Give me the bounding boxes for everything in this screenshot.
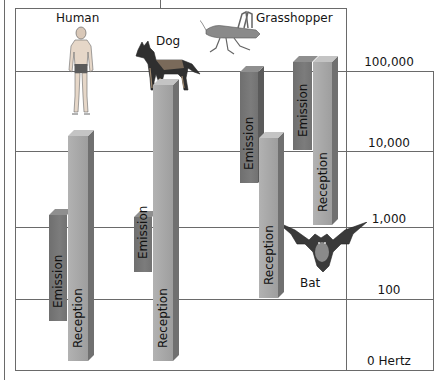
axis-column-right: [433, 71, 434, 371]
chart-frame-left: [15, 8, 16, 371]
axis-tick-100000: 100,000: [349, 55, 429, 69]
outer-left-border: [4, 0, 5, 380]
animal-label-human: Human: [56, 11, 99, 25]
chart-frame-divider: [346, 8, 347, 371]
dog-reception-label: Reception: [156, 288, 170, 348]
chart-frame-top: [15, 8, 347, 9]
human-emission-label: Emission: [51, 255, 65, 308]
dog-emission-label: Emission: [136, 206, 150, 259]
bat-reception-bar: Reception: [313, 62, 332, 225]
dog-reception-bar: Reception: [153, 85, 173, 361]
dog-emission-bar: Emission: [134, 217, 152, 272]
grasshopper-icon: [200, 8, 262, 58]
grasshopper-emission-bar: Emission: [240, 72, 258, 183]
bat-icon: [275, 222, 369, 274]
axis-tick-100: 100: [349, 283, 429, 297]
grasshopper-emission-label: Emission: [242, 117, 256, 170]
bat-reception-label: Reception: [316, 152, 330, 212]
grasshopper-reception-bar: Reception: [259, 138, 278, 298]
human-reception-label: Reception: [71, 288, 85, 348]
axis-tick-10000: 10,000: [349, 136, 429, 150]
bat-emission-label: Emission: [296, 84, 310, 137]
human-emission-bar: Emission: [49, 215, 67, 321]
animal-label-bat: Bat: [300, 276, 320, 290]
top-connector-line: [160, 0, 161, 8]
human-reception-bar: Reception: [68, 136, 88, 361]
axis-tick-0: 0 Hertz: [349, 354, 429, 368]
bat-emission-bar: Emission: [293, 62, 312, 150]
grasshopper-reception-label: Reception: [262, 225, 276, 285]
human-icon: [62, 26, 100, 118]
chart-frame-bottom: [15, 370, 434, 371]
animal-label-grasshopper: Grasshopper: [256, 11, 333, 25]
